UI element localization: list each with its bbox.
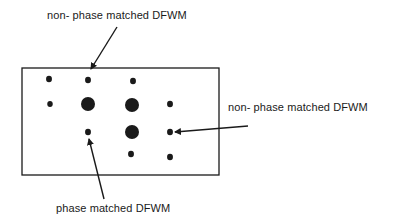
- arrow-bottom: [89, 139, 104, 199]
- label-non-phase-matched-top: non- phase matched DFWM: [47, 9, 187, 21]
- arrow-group: [89, 27, 248, 199]
- small-spot: [85, 129, 91, 135]
- small-spot: [130, 78, 136, 84]
- large-spot: [125, 125, 139, 139]
- small-spot: [167, 101, 173, 107]
- small-spot: [85, 77, 91, 83]
- arrow-right: [175, 126, 248, 132]
- small-spot: [128, 151, 134, 157]
- arrow-top: [91, 27, 117, 69]
- small-spot: [167, 129, 173, 135]
- large-spot: [125, 98, 139, 112]
- small-spot: [46, 76, 52, 82]
- small-spot: [47, 101, 53, 107]
- label-non-phase-matched-right: non- phase matched DFWM: [228, 101, 368, 113]
- large-spot: [81, 97, 95, 111]
- small-spot: [167, 154, 173, 160]
- spot-group: [46, 76, 173, 160]
- detection-screen-frame: [22, 68, 219, 175]
- label-phase-matched: phase matched DFWM: [56, 202, 170, 214]
